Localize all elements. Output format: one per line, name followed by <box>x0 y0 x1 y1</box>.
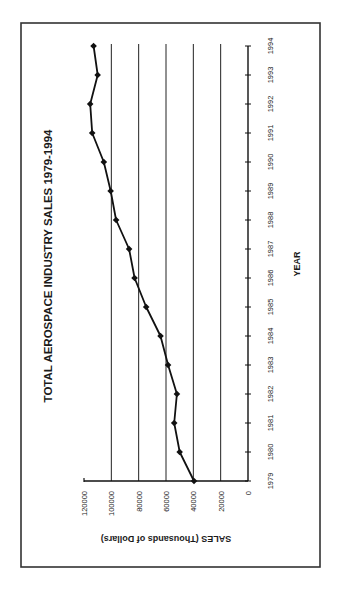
gridlines <box>111 44 220 481</box>
x-tick-label: 1985 <box>266 299 275 316</box>
chart-title: TOTAL AEROSPACE INDUSTRY SALES 1979-1994 <box>42 129 54 402</box>
x-axis-title: YEAR <box>292 251 302 277</box>
data-point-marker <box>191 478 198 485</box>
chart-frame <box>21 23 320 567</box>
chart: 0200004000060000800001000001200001979198… <box>0 0 342 591</box>
data-point-marker <box>143 304 150 311</box>
data-point-marker <box>157 333 164 340</box>
data-point-marker <box>89 130 96 137</box>
data-point-marker <box>176 449 183 456</box>
x-tick-label: 1993 <box>266 67 275 84</box>
x-tick-label: 1983 <box>266 357 275 374</box>
x-tick-label: 1980 <box>266 444 275 461</box>
x-tick-label: 1989 <box>266 183 275 200</box>
x-tick-label: 1981 <box>266 415 275 432</box>
data-point-marker <box>87 101 94 108</box>
data-point-marker <box>101 159 108 166</box>
x-tick-label: 1987 <box>266 241 275 258</box>
data-point-marker <box>107 188 114 195</box>
data-series <box>87 43 197 485</box>
y-tick-label: 60000 <box>162 491 171 512</box>
data-point-marker <box>171 420 178 427</box>
data-point-marker <box>126 246 133 253</box>
x-tick-label: 1988 <box>266 212 275 229</box>
x-tick-label: 1991 <box>266 125 275 142</box>
x-tick-label: 1986 <box>266 270 275 287</box>
y-tick-label: 40000 <box>189 491 198 512</box>
axes <box>84 46 251 482</box>
x-tick-label: 1984 <box>266 328 275 345</box>
y-tick-label: 100000 <box>107 491 116 516</box>
data-point-marker <box>174 391 181 398</box>
data-point-marker <box>90 43 97 50</box>
x-tick-label: 1982 <box>266 386 275 403</box>
y-tick-label: 20000 <box>217 491 226 512</box>
series-line <box>90 46 194 481</box>
y-tick-label: 120000 <box>80 491 89 516</box>
y-tick-label: 0 <box>244 491 253 495</box>
y-tick-label: 80000 <box>135 491 144 512</box>
y-axis-title: SALES (Thousands of Dollars) <box>101 534 232 544</box>
x-tick-label: 1990 <box>266 154 275 171</box>
data-point-marker <box>94 72 101 79</box>
x-tick-label: 1994 <box>266 38 275 55</box>
x-tick-label: 1979 <box>266 473 275 490</box>
x-tick-label: 1992 <box>266 96 275 113</box>
data-point-marker <box>113 217 120 224</box>
data-point-marker <box>131 275 138 282</box>
